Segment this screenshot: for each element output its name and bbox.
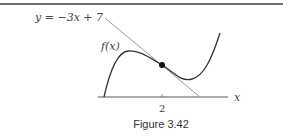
tangent-point — [159, 62, 165, 68]
tick-label-2: 2 — [159, 103, 165, 114]
tangent-label: y = −3x + 7 — [34, 11, 103, 24]
x-axis-label: x — [234, 91, 241, 104]
figure-caption: Figure 3.42 — [0, 118, 298, 130]
curve-label: f(x) — [100, 40, 120, 53]
